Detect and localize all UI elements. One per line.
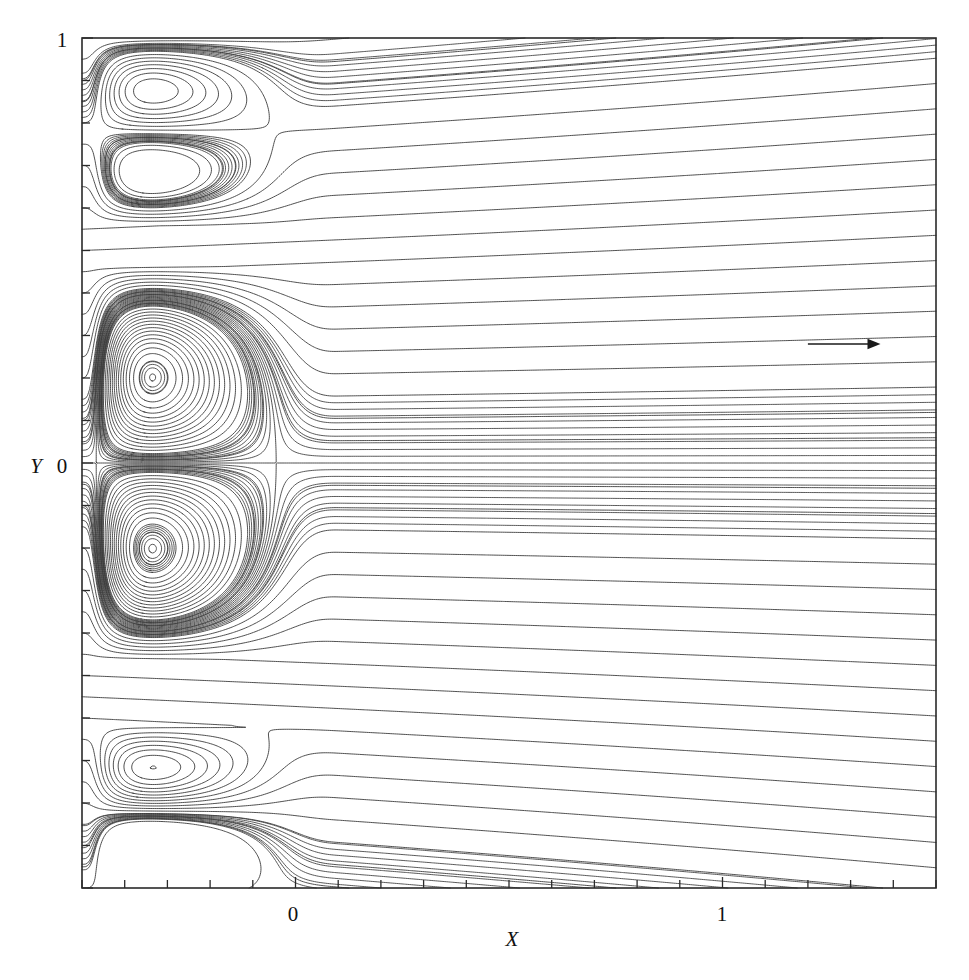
y-ticklabel-0: 0 [57, 454, 68, 478]
x-ticklabel-0: 0 [288, 902, 299, 926]
streamline-figure: 1 0 Y 0 1 X [0, 0, 969, 980]
y-ticklabel-1: 1 [57, 28, 68, 52]
x-ticklabel-1: 1 [717, 902, 728, 926]
streamline-plot-svg: 1 0 Y 0 1 X [0, 0, 969, 980]
x-axis-label: X [505, 927, 520, 951]
